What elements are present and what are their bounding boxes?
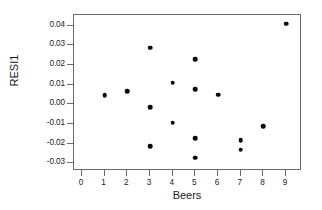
x-axis-tick (126, 170, 127, 176)
data-point (284, 21, 289, 26)
x-axis-tick-label: 4 (162, 178, 182, 187)
x-axis-tick (217, 170, 218, 176)
y-axis-tick (67, 143, 73, 144)
x-axis-tick-label: 1 (94, 178, 114, 187)
data-point (170, 80, 175, 85)
x-axis-tick (81, 170, 82, 176)
y-axis-tick (67, 25, 73, 26)
data-point (216, 92, 221, 97)
y-axis-tick (67, 103, 73, 104)
x-axis-tick-label: 6 (207, 178, 227, 187)
x-axis-tick (262, 170, 263, 176)
x-axis-label: Beers (73, 189, 301, 202)
x-axis-tick (104, 170, 105, 176)
x-axis-tick-label: 7 (230, 178, 250, 187)
data-point (261, 124, 266, 129)
x-axis-tick (172, 170, 173, 176)
x-axis-tick-label: 2 (116, 178, 136, 187)
y-axis-label: RESI1 (8, 31, 21, 111)
y-axis-tick (67, 123, 73, 124)
x-axis-tick-label: 8 (252, 178, 272, 187)
y-axis-tick-label: -0.03 (25, 158, 65, 166)
x-axis-tick-label: 9 (275, 178, 295, 187)
data-point (148, 105, 153, 110)
plot-area (73, 14, 301, 170)
data-point (193, 156, 198, 161)
y-axis-tick-label: 0.02 (25, 60, 65, 68)
x-axis-tick (285, 170, 286, 176)
y-axis-tick-label: 0.00 (25, 99, 65, 107)
x-axis-tick (194, 170, 195, 176)
x-axis-tick-label: 3 (139, 178, 159, 187)
y-axis-tick (67, 84, 73, 85)
y-axis-tick-label: -0.01 (25, 119, 65, 127)
x-axis-tick (240, 170, 241, 176)
y-axis-tick-label: -0.02 (25, 138, 65, 146)
y-axis-tick-label: 0.04 (25, 21, 65, 29)
y-axis-tick (67, 64, 73, 65)
x-axis-tick-label: 0 (71, 178, 91, 187)
x-axis-tick (149, 170, 150, 176)
scatter-chart-figure: RESI1 0.040.030.020.010.00-0.01-0.02-0.0… (0, 0, 322, 210)
y-axis-tick (67, 162, 73, 163)
data-point (102, 93, 107, 98)
data-point (193, 136, 198, 141)
y-axis-tick-label: 0.03 (25, 40, 65, 48)
y-axis-tick (67, 44, 73, 45)
x-axis-tick-label: 5 (184, 178, 204, 187)
data-point (238, 138, 243, 143)
y-axis-tick-labels: 0.040.030.020.010.00-0.01-0.02-0.03 (22, 0, 65, 210)
data-point (238, 148, 243, 153)
data-point (193, 87, 198, 92)
data-point (148, 45, 153, 50)
y-axis-tick-label: 0.01 (25, 80, 65, 88)
data-point (170, 120, 175, 125)
data-point (193, 57, 198, 62)
data-point (148, 144, 153, 149)
data-point (125, 89, 130, 94)
